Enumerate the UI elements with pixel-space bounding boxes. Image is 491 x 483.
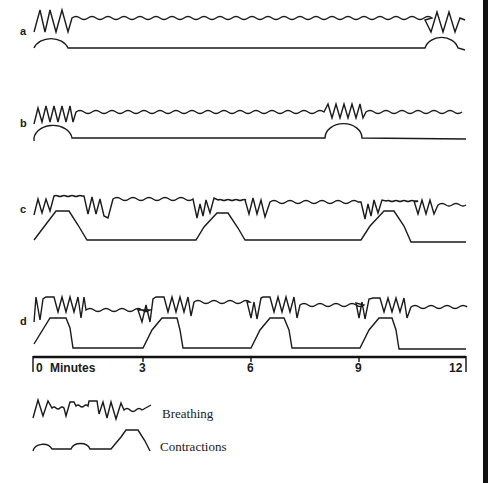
axis-unit-label: Minutes (50, 361, 96, 375)
row-label-c: c (20, 203, 26, 215)
axis-tick-label-6: 6 (247, 361, 254, 375)
breathing-trace-d (34, 297, 467, 322)
time-axis: 0 Minutes 3 6 9 12 (33, 356, 466, 375)
breathing-trace-a (34, 10, 465, 32)
legend-contractions-swatch (33, 430, 150, 451)
legend: Breathing Contractions (33, 400, 226, 454)
row-b: b (20, 104, 466, 141)
row-c: c (20, 196, 466, 243)
axis-tick-label-3: 3 (139, 361, 146, 375)
row-label-d: d (20, 315, 27, 327)
breathing-trace-c (34, 196, 466, 220)
legend-breathing-label: Breathing (162, 406, 214, 421)
contraction-trace-c (34, 211, 466, 242)
page-edge-border (483, 0, 488, 483)
contraction-trace-a (34, 37, 465, 50)
contraction-trace-d (34, 318, 466, 349)
row-label-a: a (20, 25, 27, 37)
row-d: d (20, 297, 467, 349)
contraction-trace-b (34, 124, 466, 141)
legend-breathing-swatch (33, 400, 151, 419)
breathing-trace-b (34, 104, 462, 124)
legend-contractions-label: Contractions (160, 439, 226, 454)
row-a: a (20, 10, 465, 50)
axis-tick-label-9: 9 (355, 361, 362, 375)
axis-tick-label-12: 12 (449, 361, 463, 375)
row-label-b: b (20, 117, 27, 129)
labor-contractions-diagram: a b c d 0 Minutes 3 6 9 12 Breathin (0, 0, 491, 483)
axis-tick-label-0: 0 (36, 361, 43, 375)
